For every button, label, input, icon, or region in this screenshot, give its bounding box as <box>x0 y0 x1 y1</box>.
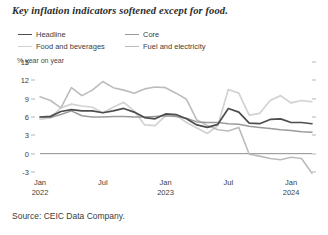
y-tick-label: 15 <box>21 58 29 67</box>
series-line-fuel-and-electricity <box>40 82 312 174</box>
legend-item-fuel-and-electricity: Fuel and electricity <box>125 40 310 52</box>
x-tick-label: Jan2023 <box>157 178 174 198</box>
y-tick-mark-right <box>312 62 316 63</box>
y-tick-label: 9 <box>25 94 29 103</box>
x-tick-label: Jul <box>98 178 108 188</box>
legend-label: Food and beverages <box>36 42 105 51</box>
y-tick-mark-right <box>312 98 316 99</box>
chart-legend: Headline Core Food and beverages Fuel an… <box>18 28 310 52</box>
y-tick-mark <box>31 98 35 99</box>
legend-label: Core <box>143 30 159 39</box>
series-line-headline <box>40 108 312 127</box>
series-canvas <box>40 62 312 172</box>
y-tick-mark <box>31 62 35 63</box>
y-tick-label: 12 <box>21 76 29 85</box>
y-axis-ticks: 15129630-3 <box>0 62 40 172</box>
legend-item-food-and-beverages: Food and beverages <box>18 40 125 52</box>
y-tick-label: 6 <box>25 113 29 122</box>
y-tick-label: -3 <box>22 168 29 177</box>
legend-swatch-line-icon <box>125 34 139 35</box>
y-tick-mark <box>31 153 35 154</box>
y-tick-mark <box>31 135 35 136</box>
y-tick-label: 0 <box>25 149 29 158</box>
x-tick-label: Jan2022 <box>32 178 49 198</box>
y-tick-mark-right <box>312 153 316 154</box>
plot-area <box>40 62 312 172</box>
legend-label: Fuel and electricity <box>143 42 206 51</box>
legend-swatch-line-icon <box>125 46 139 47</box>
y-tick-mark-right <box>312 172 316 173</box>
x-tick-label: Jul <box>224 178 234 188</box>
x-tick-label: Jan2024 <box>283 178 300 198</box>
legend-swatch-line-icon <box>18 34 32 35</box>
x-axis-ticks: Jan2022JulJan2023JulJan2024 <box>40 176 312 202</box>
y-tick-label: 3 <box>25 131 29 140</box>
inflation-line-chart: Key inflation indicators softened except… <box>0 0 328 235</box>
legend-item-headline: Headline <box>18 28 125 40</box>
y-tick-mark-right <box>312 117 316 118</box>
y-tick-mark <box>31 80 35 81</box>
legend-swatch-line-icon <box>18 46 32 47</box>
y-tick-mark-right <box>312 135 316 136</box>
legend-item-core: Core <box>125 28 310 40</box>
y-tick-mark-right <box>312 80 316 81</box>
source-note: Source: CEIC Data Company. <box>12 211 125 221</box>
y-tick-mark <box>31 117 35 118</box>
chart-title: Key inflation indicators softened except… <box>12 5 312 17</box>
y-tick-mark <box>31 172 35 173</box>
legend-label: Headline <box>36 30 66 39</box>
